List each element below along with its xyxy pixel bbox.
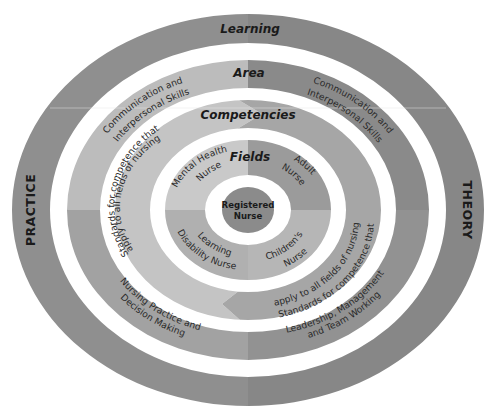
center-registered-nurse — [222, 187, 274, 233]
nursing-framework-diagram: Learning Area Competencies Fields PRACTI… — [0, 0, 495, 415]
ring-title-area: Area — [232, 66, 264, 80]
side-label-theory: THEORY — [460, 180, 475, 240]
center-label-line2: Nurse — [234, 211, 263, 221]
center-label-line1: Registered — [222, 200, 275, 210]
ring-title-fields: Fields — [230, 150, 270, 164]
ring-title-learning: Learning — [220, 22, 280, 36]
side-label-practice: PRACTICE — [23, 174, 38, 247]
ring-title-competencies: Competencies — [200, 108, 295, 122]
